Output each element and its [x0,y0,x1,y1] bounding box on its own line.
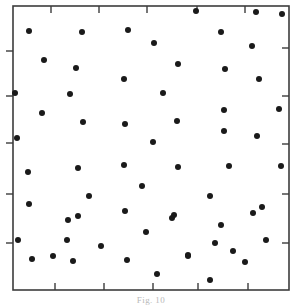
data-point [39,110,45,116]
data-point [14,135,20,141]
data-point [121,76,127,82]
scatter-plot-svg [0,0,302,306]
data-point [222,66,228,72]
data-point [25,169,31,175]
data-point [80,119,86,125]
data-point [121,162,127,168]
data-point [207,277,213,283]
data-point [139,183,145,189]
data-point [175,61,181,67]
data-point [125,27,131,33]
data-point [279,11,285,17]
data-point [218,222,224,228]
data-point [29,256,35,262]
data-point [193,8,199,14]
data-point [50,253,56,259]
figure-root: Fig. 10 [0,0,302,306]
data-point [151,40,157,46]
data-point [253,9,259,15]
data-point [175,164,181,170]
figure-caption: Fig. 10 [0,294,302,306]
data-point [254,133,260,139]
data-point [249,43,255,49]
data-point [185,253,191,259]
data-point [64,237,70,243]
data-point [207,193,213,199]
data-point [259,204,265,210]
data-point [143,229,149,235]
data-point [221,107,227,113]
data-point [263,237,269,243]
data-point [79,29,85,35]
data-point [12,90,18,96]
data-point [154,271,160,277]
plot-background [0,0,302,306]
data-point [221,128,227,134]
data-point [122,121,128,127]
data-point [15,237,21,243]
data-point [26,201,32,207]
data-point [75,165,81,171]
data-point [276,106,282,112]
data-point [98,243,104,249]
data-point [174,118,180,124]
data-point [242,259,248,265]
data-point [256,76,262,82]
data-point [226,163,232,169]
data-point [86,193,92,199]
data-point [218,29,224,35]
data-point [230,248,236,254]
data-point [124,257,130,263]
data-point [67,91,73,97]
data-point [250,210,256,216]
data-point [278,163,284,169]
data-point [41,57,47,63]
data-point [150,139,156,145]
data-point [169,215,175,221]
data-point [65,217,71,223]
data-point [212,240,218,246]
data-point [160,90,166,96]
data-point [26,28,32,34]
data-point [70,258,76,264]
data-point [122,208,128,214]
data-point [73,65,79,71]
data-point [75,213,81,219]
